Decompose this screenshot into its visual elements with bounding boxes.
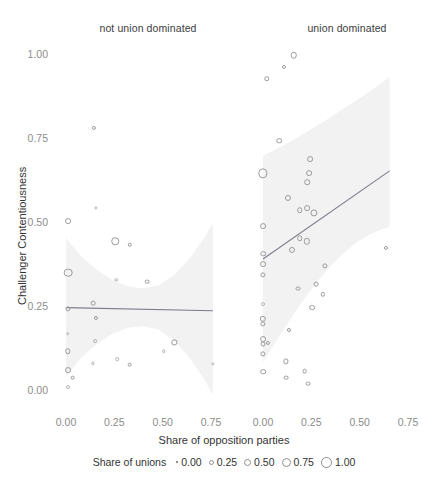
x-tick-label: 0.00 [243, 416, 283, 428]
confidence-band [263, 77, 390, 363]
data-point [314, 282, 319, 287]
data-point [70, 375, 75, 380]
data-point [307, 156, 313, 162]
legend-dot-icon [244, 459, 251, 466]
x-tick-label: 0.00 [46, 416, 86, 428]
chart-root: not union dominated union dominated Chal… [0, 0, 448, 490]
legend-label: 0.00 [181, 456, 201, 468]
data-point [93, 339, 97, 343]
legend-item[interactable]: 0.50 [244, 456, 274, 468]
y-tick-label: 0.50 [28, 216, 48, 228]
x-tick-label: 0.25 [291, 416, 331, 428]
data-point [297, 235, 303, 241]
x-tick-label: 0.75 [388, 416, 428, 428]
legend-label: 1.00 [335, 456, 355, 468]
data-point [305, 205, 311, 211]
legend-share-of-unions: Share of unions 0.000.250.500.751.00 [0, 456, 448, 468]
data-point [260, 251, 266, 257]
data-point [145, 279, 150, 284]
legend-label: 0.25 [217, 456, 237, 468]
legend-dot-icon [321, 457, 332, 468]
data-point [261, 341, 266, 346]
data-point [306, 170, 312, 176]
data-point [260, 369, 266, 375]
legend-dot-icon [209, 460, 214, 465]
data-point [306, 381, 311, 386]
data-point [297, 207, 303, 213]
data-point [309, 305, 315, 311]
facet-strip-union-dominated: union dominated [254, 22, 440, 34]
y-tick-label: 0.00 [28, 384, 48, 396]
x-axis-title: Share of opposition parties [0, 434, 448, 446]
fit-overlay [254, 45, 440, 408]
data-point [302, 368, 307, 373]
data-point [64, 268, 73, 277]
x-tick-label: 0.25 [94, 416, 134, 428]
data-point [66, 385, 70, 389]
legend-title: Share of unions [93, 456, 167, 468]
legend-dot-icon [176, 461, 178, 463]
facet-strip-not-union-dominated: not union dominated [57, 22, 239, 34]
data-point [284, 375, 289, 380]
data-point [291, 52, 298, 59]
data-point [115, 357, 119, 361]
data-point [260, 223, 266, 229]
data-point [91, 301, 96, 306]
data-point [277, 138, 283, 144]
data-point [162, 350, 166, 354]
y-tick-label: 1.00 [28, 48, 48, 60]
data-point [66, 332, 70, 336]
plot-panel-not-union-dominated [57, 45, 239, 408]
data-point [261, 302, 265, 306]
legend-item[interactable]: 0.75 [282, 456, 314, 468]
fit-overlay [57, 45, 239, 408]
data-point [65, 349, 71, 355]
data-point [65, 367, 71, 373]
x-tick-label: 0.50 [340, 416, 380, 428]
y-tick-label: 0.25 [28, 300, 48, 312]
legend-item[interactable]: 0.00 [176, 456, 201, 468]
y-axis-title: Challenger Contentiousness [16, 166, 28, 304]
data-point [304, 179, 310, 185]
plot-panel-union-dominated [254, 45, 440, 408]
x-tick-label: 0.75 [191, 416, 231, 428]
y-tick-label: 0.75 [28, 132, 48, 144]
data-point [260, 261, 266, 267]
legend-keys: 0.000.250.500.751.00 [176, 456, 355, 468]
legend-dot-icon [282, 458, 291, 467]
data-point [65, 218, 71, 224]
data-point [295, 286, 300, 291]
legend-item[interactable]: 0.25 [209, 456, 237, 468]
legend-item[interactable]: 1.00 [321, 456, 355, 468]
x-tick-label: 0.50 [143, 416, 183, 428]
legend-label: 0.50 [254, 456, 274, 468]
data-point [127, 362, 132, 367]
data-point [264, 76, 270, 82]
legend-label: 0.75 [294, 456, 314, 468]
